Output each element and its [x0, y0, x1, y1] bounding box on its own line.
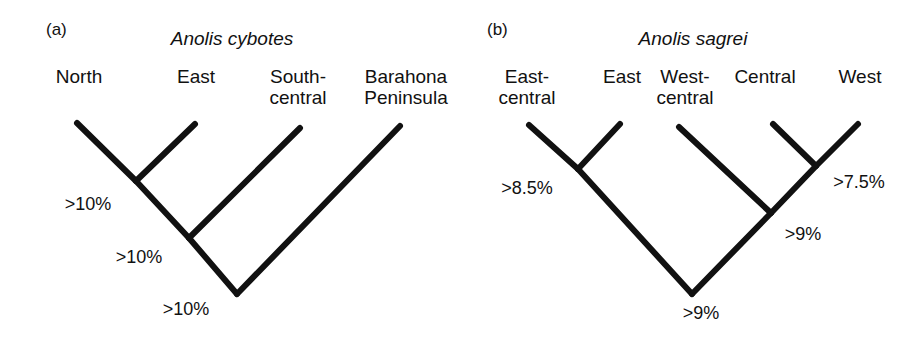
taxon-label-east-b: East — [603, 66, 641, 87]
branch-east-b — [578, 124, 620, 169]
taxon-label-west: West — [839, 66, 882, 87]
panel-a-title: Anolis cybotes — [171, 28, 294, 50]
taxon-label-barahona-peninsula: Barahona Peninsula — [364, 66, 447, 108]
support-label-node-central-west: >7.5% — [833, 172, 885, 192]
cladogram-a — [0, 0, 461, 338]
branch-east-central — [529, 125, 578, 169]
branch-central — [773, 124, 816, 166]
support-label-node-root-b: >9% — [683, 303, 720, 323]
branch-west-central — [679, 127, 771, 213]
branch-south-central — [189, 128, 300, 238]
support-label-node-root-a: >10% — [163, 299, 210, 319]
branch-nodeCW-to-nodeWC — [771, 166, 816, 213]
branch-north — [77, 123, 136, 181]
branch-node1-to-node2 — [136, 181, 189, 238]
support-label-node-north-east-southcentral: >10% — [116, 247, 163, 267]
branch-node2-to-root — [189, 238, 237, 294]
branch-west — [816, 124, 858, 166]
figure-container: (a) Anolis cybotes North East South- cen… — [0, 0, 922, 338]
taxon-label-north: North — [56, 66, 102, 87]
taxon-label-south-central: South- central — [269, 66, 326, 108]
branch-nodeEC-to-root — [578, 169, 692, 294]
branch-nodeWC-to-root — [692, 213, 771, 294]
taxon-label-east: East — [177, 66, 215, 87]
branch-barahona-peninsula — [237, 126, 400, 294]
taxon-label-west-central: West- central — [656, 66, 713, 108]
branch-east — [136, 124, 195, 181]
panel-b: (b) Anolis sagrei East- central East Wes… — [461, 0, 922, 338]
support-label-node-north-east: >10% — [65, 194, 112, 214]
support-label-node-eastcentral-east: >8.5% — [501, 178, 553, 198]
support-label-node-westcentral-central-west: >9% — [785, 224, 822, 244]
panel-b-letter: (b) — [487, 20, 508, 39]
panel-a: (a) Anolis cybotes North East South- cen… — [0, 0, 461, 338]
panel-a-letter: (a) — [46, 20, 67, 39]
taxon-label-central: Central — [734, 66, 795, 87]
panel-b-title: Anolis sagrei — [639, 28, 748, 50]
taxon-label-east-central: East- central — [498, 66, 555, 108]
cladogram-b — [461, 0, 922, 338]
